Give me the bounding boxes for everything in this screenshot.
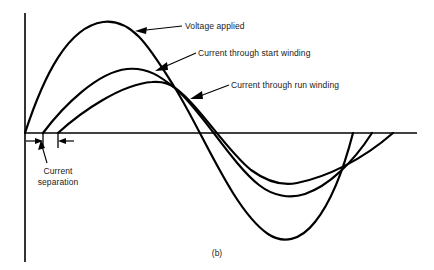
label-start-winding: Current through start winding	[198, 48, 311, 59]
label-current-separation-line2: separation	[27, 177, 89, 188]
label-current-separation: Current separation	[27, 166, 89, 188]
label-voltage-applied: Voltage applied	[185, 21, 245, 32]
leader-voltage-applied	[135, 26, 182, 34]
leader-run-winding	[190, 85, 229, 99]
current-separation-dimension	[26, 134, 74, 163]
waveform-figure: Voltage applied Current through start wi…	[0, 0, 434, 270]
label-current-separation-line1: Current	[27, 166, 89, 177]
label-run-winding: Current through run winding	[231, 80, 339, 91]
waveform-plot	[0, 0, 434, 270]
figure-caption: (b)	[0, 248, 434, 258]
leader-start-winding	[155, 53, 196, 71]
